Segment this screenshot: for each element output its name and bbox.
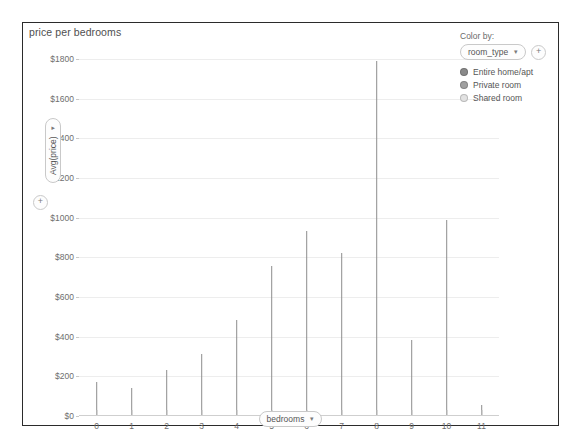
legend-item[interactable]: Private room (460, 80, 550, 90)
y-axis-add-button[interactable]: + (33, 195, 48, 210)
bar[interactable] (411, 340, 413, 416)
legend-item-label: Entire home/apt (473, 67, 533, 77)
screenshot-root: price per bedrooms $0$200$400$600$800$10… (0, 0, 582, 447)
legend-add-button[interactable]: + (531, 45, 546, 60)
legend-title: Color by: (460, 31, 550, 41)
gridline (79, 257, 499, 258)
legend: Color by: room_type ▾ + Entire home/aptP… (460, 31, 550, 106)
y-axis-tick-mark (76, 99, 79, 100)
color-by-field-label: room_type (468, 46, 508, 58)
chevron-down-icon[interactable]: ▾ (514, 46, 518, 58)
gridline (79, 218, 499, 219)
bar[interactable] (341, 253, 343, 416)
legend-swatch-icon (460, 94, 468, 102)
y-axis-tick-mark (76, 257, 79, 258)
bar[interactable] (236, 320, 238, 416)
bar[interactable] (201, 354, 203, 416)
chart-title: price per bedrooms (29, 26, 121, 38)
legend-items: Entire home/aptPrivate roomShared room (460, 67, 550, 103)
y-axis-tick-label: $1800 (50, 54, 74, 64)
color-by-field-pill[interactable]: room_type ▾ (460, 44, 526, 60)
y-axis-tick-label: $200 (55, 371, 74, 381)
gridline (79, 297, 499, 298)
gridline (79, 59, 499, 60)
gridline (79, 178, 499, 179)
gridline (79, 138, 499, 139)
bar[interactable] (446, 220, 448, 416)
x-axis-field-pill[interactable]: bedrooms ▾ (259, 411, 323, 427)
y-axis-tick-mark (76, 178, 79, 179)
y-axis-tick-mark (76, 297, 79, 298)
legend-item-label: Private room (473, 80, 521, 90)
plot-inner: $0$200$400$600$800$1000$1200$1400$1600$1… (79, 41, 499, 416)
y-axis-tick-mark (76, 376, 79, 377)
x-axis-field-label: bedrooms (267, 413, 305, 425)
legend-swatch-icon (460, 68, 468, 76)
x-axis-field-pill-wrap: bedrooms ▾ (23, 408, 558, 427)
y-axis-tick-label: $600 (55, 292, 74, 302)
chevron-down-icon[interactable]: ▾ (310, 413, 314, 425)
gridline (79, 99, 499, 100)
y-axis-tick-mark (76, 138, 79, 139)
chevron-down-icon[interactable]: ▾ (47, 126, 59, 130)
y-axis-tick-mark (76, 337, 79, 338)
y-axis-field-label: Avg(price) (47, 136, 59, 175)
legend-item-label: Shared room (473, 93, 522, 103)
plot-area[interactable]: $0$200$400$600$800$1000$1200$1400$1600$1… (79, 41, 499, 416)
gridline (79, 337, 499, 338)
y-axis-tick-label: $800 (55, 252, 74, 262)
bar[interactable] (376, 61, 378, 416)
y-axis-tick-mark (76, 218, 79, 219)
y-axis-field-pill[interactable]: Avg(price) ▾ (45, 118, 61, 183)
legend-item[interactable]: Shared room (460, 93, 550, 103)
bar[interactable] (306, 231, 308, 416)
legend-swatch-icon (460, 81, 468, 89)
y-axis-tick-label: $1000 (50, 213, 74, 223)
viz-container: price per bedrooms $0$200$400$600$800$10… (22, 22, 559, 426)
gridline (79, 376, 499, 377)
y-axis-tick-label: $400 (55, 332, 74, 342)
legend-control: room_type ▾ + (460, 44, 550, 60)
y-axis-tick-label: $1600 (50, 94, 74, 104)
bar[interactable] (271, 266, 273, 416)
legend-item[interactable]: Entire home/apt (460, 67, 550, 77)
y-axis-tick-mark (76, 59, 79, 60)
